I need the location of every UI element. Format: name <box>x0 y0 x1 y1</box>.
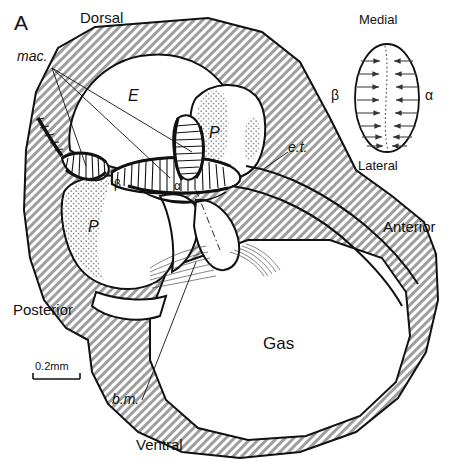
label-basilar-membrane: b.m. <box>112 392 139 406</box>
inset-label-medial: Medial <box>359 13 397 26</box>
label-chamber-p-upper: P <box>209 125 220 141</box>
label-macula: mac. <box>17 49 47 63</box>
orientation-label-dorsal: Dorsal <box>80 10 123 25</box>
inset-label-beta: β <box>331 88 339 102</box>
orientation-label-posterior: Posterior <box>13 302 73 317</box>
macula-right <box>173 115 203 180</box>
panel-letter: A <box>14 12 29 33</box>
inset-orientation-diagram <box>355 44 419 152</box>
inset-label-alpha: α <box>425 88 433 102</box>
label-chamber-e: E <box>128 88 139 104</box>
label-gas: Gas <box>263 335 294 352</box>
orientation-label-ventral: Ventral <box>136 437 183 452</box>
orientation-label-anterior: Anterior <box>383 219 436 234</box>
scale-bar-label: 0.2mm <box>35 361 69 372</box>
label-chamber-p-lower: P <box>88 219 99 235</box>
inset-label-lateral: Lateral <box>358 159 398 172</box>
label-eustachian-tube: e.t. <box>288 140 307 154</box>
scale-bar <box>33 373 80 379</box>
label-beta-main: β <box>114 178 121 190</box>
label-alpha-main: α <box>174 180 181 192</box>
